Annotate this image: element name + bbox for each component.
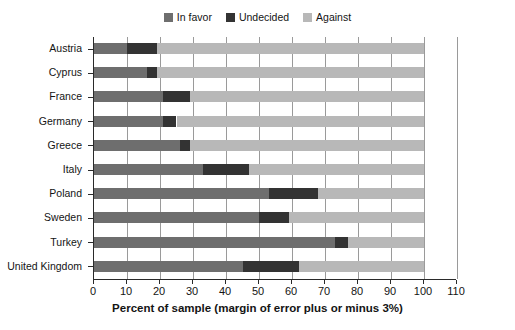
bar-segment-against[interactable] [289, 212, 424, 223]
bar-row [94, 67, 424, 78]
gridline-110 [457, 37, 458, 279]
bar-row [94, 43, 424, 54]
gridline-100 [424, 37, 425, 279]
legend-item-undecided[interactable]: Undecided [226, 12, 289, 23]
y-axis-label-italy: Italy [63, 164, 82, 175]
y-axis-label-austria: Austria [49, 43, 82, 54]
y-axis-tick [88, 97, 93, 98]
legend-swatch-icon [226, 13, 235, 22]
x-axis-tick-label-30: 30 [186, 286, 198, 297]
bar-segment-in-favor[interactable] [94, 67, 147, 78]
x-axis-tick-label-70: 70 [318, 286, 330, 297]
x-axis-tick-110 [456, 280, 457, 284]
y-axis-tick [88, 49, 93, 50]
y-axis-tick [88, 145, 93, 146]
x-axis-tick-50 [258, 280, 259, 284]
x-axis-line [93, 279, 456, 280]
legend-label: Undecided [239, 12, 289, 23]
x-axis-tick-80 [357, 280, 358, 284]
bar-segment-in-favor[interactable] [94, 91, 163, 102]
x-axis-tick-30 [192, 280, 193, 284]
x-axis-tick-100 [423, 280, 424, 284]
bar-row [94, 164, 424, 175]
bar-row [94, 116, 424, 127]
bar-row [94, 188, 424, 199]
x-axis-tick-60 [291, 280, 292, 284]
legend-label: In favor [177, 12, 212, 23]
x-axis-tick-label-40: 40 [219, 286, 231, 297]
y-axis-label-turkey: Turkey [50, 237, 82, 248]
bar-segment-undecided[interactable] [335, 237, 348, 248]
bar-segment-against[interactable] [190, 91, 424, 102]
y-axis-tick [88, 266, 93, 267]
y-axis-label-cyprus: Cyprus [49, 67, 82, 78]
legend-item-in-favor[interactable]: In favor [164, 12, 212, 23]
y-axis-label-france: France [49, 91, 82, 102]
bar-segment-undecided[interactable] [269, 188, 319, 199]
y-axis-tick [88, 73, 93, 74]
bar-segment-against[interactable] [249, 164, 424, 175]
x-axis-tick-40 [225, 280, 226, 284]
legend-item-against[interactable]: Against [303, 12, 351, 23]
x-axis-tick-label-10: 10 [120, 286, 132, 297]
x-axis-title: Percent of sample (margin of error plus … [0, 302, 515, 314]
bar-segment-in-favor[interactable] [94, 237, 335, 248]
y-axis-tick [88, 218, 93, 219]
bar-segment-undecided[interactable] [203, 164, 249, 175]
bar-segment-undecided[interactable] [163, 91, 189, 102]
bar-segment-undecided[interactable] [259, 212, 289, 223]
bar-row [94, 140, 424, 151]
y-axis-tick [88, 194, 93, 195]
bar-segment-against[interactable] [177, 116, 425, 127]
x-axis-tick-20 [159, 280, 160, 284]
bar-segment-undecided[interactable] [180, 140, 190, 151]
y-axis-label-poland: Poland [49, 188, 82, 199]
y-axis-label-united-kingdom: United Kingdom [7, 261, 82, 272]
chart-legend: In favorUndecidedAgainst [0, 12, 515, 23]
x-axis-tick-label-100: 100 [414, 286, 432, 297]
plot-area [93, 37, 424, 279]
bar-segment-against[interactable] [348, 237, 424, 248]
y-axis-tick [88, 121, 93, 122]
x-axis-tick-label-0: 0 [90, 286, 96, 297]
bar-segment-against[interactable] [299, 261, 424, 272]
y-axis-label-sweden: Sweden [44, 212, 82, 223]
bar-row [94, 237, 424, 248]
x-axis-tick-label-110: 110 [447, 286, 465, 297]
x-axis-tick-label-90: 90 [384, 286, 396, 297]
bar-segment-against[interactable] [157, 67, 424, 78]
bar-segment-against[interactable] [157, 43, 424, 54]
y-axis-category-labels: AustriaCyprusFranceGermanyGreeceItalyPol… [0, 37, 88, 279]
bar-segment-undecided[interactable] [147, 67, 157, 78]
y-axis-tick [88, 170, 93, 171]
x-axis-tick-label-60: 60 [285, 286, 297, 297]
x-axis-tick-70 [324, 280, 325, 284]
x-axis-tick-label-80: 80 [351, 286, 363, 297]
bar-segment-in-favor[interactable] [94, 188, 269, 199]
bar-segment-in-favor[interactable] [94, 43, 127, 54]
bar-segment-against[interactable] [190, 140, 424, 151]
legend-swatch-icon [303, 13, 312, 22]
bar-segment-undecided[interactable] [127, 43, 157, 54]
bar-segment-undecided[interactable] [243, 261, 299, 272]
x-axis-tick-label-50: 50 [252, 286, 264, 297]
bar-segment-in-favor[interactable] [94, 261, 243, 272]
y-axis-label-germany: Germany [39, 116, 82, 127]
x-axis-tick-10 [126, 280, 127, 284]
bar-segment-in-favor[interactable] [94, 164, 203, 175]
bar-segment-in-favor[interactable] [94, 140, 180, 151]
bar-row [94, 261, 424, 272]
bar-segment-in-favor[interactable] [94, 212, 259, 223]
bar-row [94, 212, 424, 223]
stacked-bar-chart: In favorUndecidedAgainst AustriaCyprusFr… [0, 0, 515, 330]
legend-swatch-icon [164, 13, 173, 22]
bar-segment-in-favor[interactable] [94, 116, 163, 127]
x-axis-tick-90 [390, 280, 391, 284]
x-axis-tick-0 [93, 280, 94, 284]
bar-segment-undecided[interactable] [163, 116, 176, 127]
y-axis-tick [88, 242, 93, 243]
y-axis-label-greece: Greece [48, 140, 82, 151]
bar-segment-against[interactable] [318, 188, 424, 199]
bar-row [94, 91, 424, 102]
legend-label: Against [316, 12, 351, 23]
